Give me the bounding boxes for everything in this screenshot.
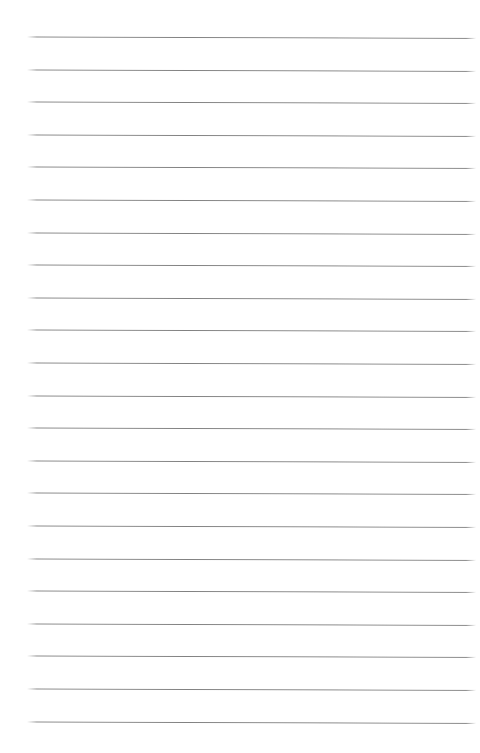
writing-row[interactable]: [27, 528, 476, 558]
notebook-page: [0, 0, 480, 753]
writing-row[interactable]: [27, 332, 476, 362]
rule-line-left-tip: [27, 655, 37, 657]
rule-line-stroke: [27, 721, 476, 724]
rule-line-left-tip: [27, 101, 37, 103]
writing-row[interactable]: [27, 299, 476, 329]
rule-line-left-tip: [27, 36, 37, 38]
writing-row[interactable]: [27, 560, 476, 590]
rule-line-left-tip: [27, 329, 37, 331]
writing-row[interactable]: [27, 658, 476, 688]
writing-row[interactable]: [27, 593, 476, 623]
rule-line-left-tip: [27, 721, 37, 723]
writing-row[interactable]: [27, 104, 476, 134]
writing-row[interactable]: [27, 267, 476, 297]
rule-line: [27, 721, 476, 724]
rule-line-left-tip: [27, 427, 37, 429]
rule-line-left-tip: [27, 590, 37, 592]
writing-row[interactable]: [27, 39, 476, 69]
rule-line-right-tip: [466, 722, 476, 724]
rule-line-left-tip: [27, 264, 37, 266]
writing-row[interactable]: [27, 397, 476, 427]
rule-line-left-tip: [27, 199, 37, 201]
rule-line-left-tip: [27, 525, 37, 527]
rule-line-left-tip: [27, 688, 37, 690]
rule-line-left-tip: [27, 166, 37, 168]
writing-row[interactable]: [27, 625, 476, 655]
writing-row[interactable]: [27, 365, 476, 395]
writing-row[interactable]: [27, 495, 476, 525]
rule-line-left-tip: [27, 362, 37, 364]
writing-row[interactable]: [27, 691, 476, 721]
writing-row[interactable]: [27, 71, 476, 101]
writing-row[interactable]: [27, 169, 476, 199]
writing-row[interactable]: [27, 430, 476, 460]
rule-line-left-tip: [27, 492, 37, 494]
writing-row[interactable]: [27, 234, 476, 264]
writing-row[interactable]: [27, 136, 476, 166]
writing-row[interactable]: [27, 6, 476, 36]
writing-row[interactable]: [27, 202, 476, 232]
writing-row[interactable]: [27, 462, 476, 492]
